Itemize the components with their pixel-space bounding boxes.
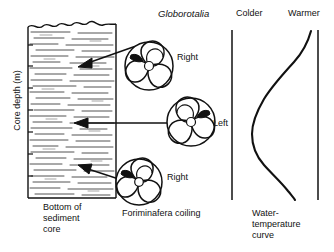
colder-axis-label: Colder (236, 8, 263, 19)
genus-title: Globorotalia (158, 8, 209, 19)
temperature-curve-line (252, 31, 311, 200)
sediment-core-column (28, 18, 116, 200)
core-hatching (28, 18, 116, 200)
warmer-axis-label: Warmer (288, 8, 320, 19)
foraminifera-coiling-caption: Foriminafera coiling (122, 208, 201, 219)
coiling-label-middle: Left (213, 118, 228, 129)
foraminifera-middle-left-coiling (167, 97, 215, 146)
foraminifera-bottom-right-coiling (116, 158, 162, 205)
water-temperature-plot (232, 30, 318, 200)
core-depth-axis-label: Core depth (m) (12, 56, 23, 146)
water-temperature-curve-caption: Water- temperature curve (252, 208, 301, 241)
figure-canvas: Globorotalia Colder Warmer Core depth (m… (0, 0, 334, 252)
arrow-middle-sample (74, 118, 168, 128)
coiling-label-top: Right (177, 52, 198, 63)
foraminifera-top-right-coiling (125, 41, 173, 90)
bottom-of-core-caption: Bottom of sediment core (43, 202, 82, 235)
coiling-label-bottom: Right (167, 172, 188, 183)
